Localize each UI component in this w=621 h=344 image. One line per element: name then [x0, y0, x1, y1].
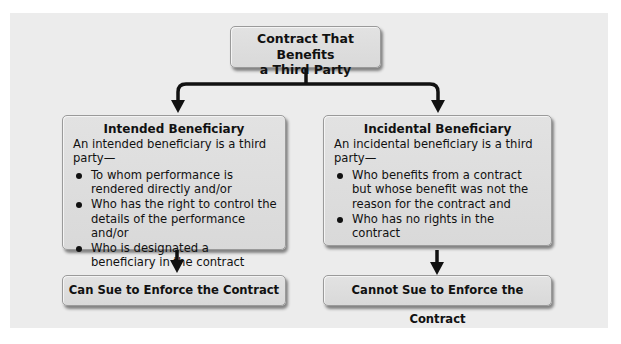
node-title: Intended Beneficiary: [71, 122, 277, 137]
arrow-down-icon: [171, 100, 185, 113]
can-sue-outcome-node: Can Sue to Enforce the Contract: [62, 275, 286, 306]
arrow-down-icon: [430, 262, 444, 275]
bullet-item: Who has no rights in the contract: [352, 212, 543, 241]
bullet-list: Who benefits from a contract but whose b…: [332, 168, 543, 241]
arrow-down-icon: [431, 100, 445, 113]
cannot-sue-outcome-node: Cannot Sue to Enforce the Contract: [323, 275, 552, 306]
node-intro: An intended beneficiary is a third party…: [71, 137, 277, 166]
root-label-line2: a Third Party: [231, 62, 380, 78]
incidental-beneficiary-node: Incidental Beneficiary An incidental ben…: [323, 115, 552, 246]
bullet-item: To whom performance is rendered directly…: [91, 168, 277, 197]
node-title: Incidental Beneficiary: [332, 122, 543, 137]
node-intro: An incidental beneficiary is a third par…: [332, 137, 543, 166]
bullet-list: To whom performance is rendered directly…: [71, 168, 277, 270]
bullet-item: Who is designated a beneficiary in the c…: [91, 241, 277, 270]
intended-beneficiary-node: Intended Beneficiary An intended benefic…: [62, 115, 286, 250]
root-label-line1: Contract That Benefits: [231, 31, 380, 62]
bullet-item: Who benefits from a contract but whose b…: [352, 168, 543, 212]
root-node: Contract That Benefits a Third Party: [230, 26, 381, 68]
bullet-item: Who has the right to control the details…: [91, 197, 277, 241]
